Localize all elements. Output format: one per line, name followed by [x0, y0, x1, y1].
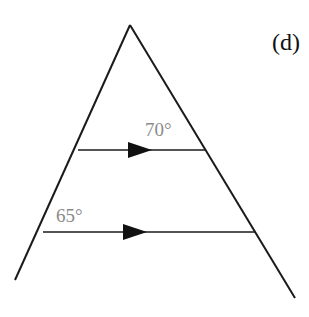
- left-transversal-line: [15, 25, 130, 280]
- angle-label-70: 70°: [145, 120, 172, 139]
- panel-label: (d): [272, 30, 300, 54]
- geometry-figure: (d) 70° 65°: [0, 0, 309, 317]
- right-transversal-line: [130, 25, 295, 298]
- angle-label-65: 65°: [56, 206, 83, 225]
- triangle-diagram: [0, 0, 309, 317]
- arrow-right-icon: [123, 224, 147, 240]
- arrow-right-icon: [128, 142, 152, 158]
